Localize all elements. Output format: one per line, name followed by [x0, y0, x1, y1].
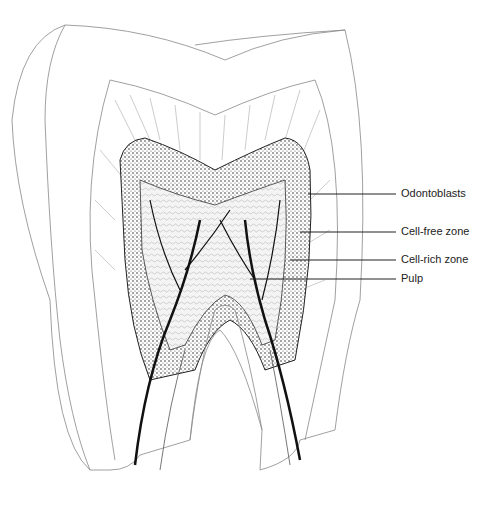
- label-cell-free-zone: Cell-free zone: [401, 225, 469, 238]
- label-cell-rich-zone: Cell-rich zone: [401, 253, 468, 266]
- label-pulp: Pulp: [401, 272, 423, 285]
- label-odontoblasts: Odontoblasts: [401, 187, 466, 200]
